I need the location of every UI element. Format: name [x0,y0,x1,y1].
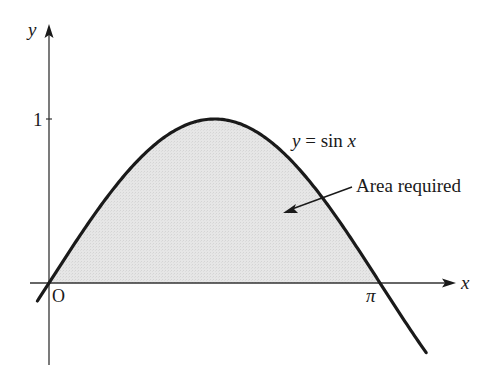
annotation-label: Area required [356,175,461,196]
y-tick-label: 1 [33,109,43,130]
function-label-x: x [347,130,357,151]
function-label: y = sin x [290,130,357,151]
pi-label: π [366,285,376,306]
sine-area-diagram: y x 1 O π y = sin x Area required [0,0,501,385]
origin-label: O [52,286,65,306]
x-axis-label: x [460,272,470,293]
function-label-eq: = sin [300,130,347,151]
y-axis-label: y [26,19,37,40]
function-label-y: y [290,130,301,151]
